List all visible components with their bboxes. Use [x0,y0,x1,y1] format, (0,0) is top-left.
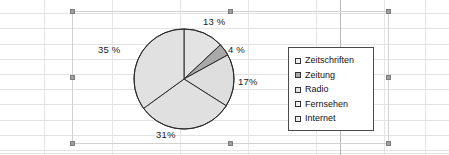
selection-handle-middle-left[interactable] [70,75,75,80]
legend-swatch-icon [295,116,301,122]
legend-item-zeitung[interactable]: Zeitung [295,69,373,82]
legend-item-label: Zeitung [305,71,335,80]
selection-handle-bottom-left[interactable] [70,141,75,146]
legend-swatch-icon [295,72,301,78]
legend-item-radio[interactable]: Radio [295,83,373,96]
legend-item-zeitschriften[interactable]: Zeitschriften [295,54,373,67]
legend-swatch-icon [295,101,301,107]
selection-handle-bottom-right[interactable] [386,141,391,146]
legend-swatch-icon [295,58,301,64]
chart-object-frame[interactable]: 13 % 4 % 17% 31% 35 % Zeitschriften Zeit… [72,11,389,144]
legend-item-fernsehen[interactable]: Fernsehen [295,98,373,111]
legend-item-label: Fernsehen [305,100,348,109]
pie-data-label-zeitung: 4 % [228,44,245,55]
legend-item-internet[interactable]: Internet [295,112,373,125]
legend-item-label: Zeitschriften [305,56,354,65]
legend-swatch-icon [295,87,301,93]
pie-data-label-zeitschriften: 13 % [203,16,225,27]
pie-slice-group [134,29,234,129]
selection-handle-top-left[interactable] [70,9,75,14]
pie-data-label-internet: 35 % [98,44,120,55]
selection-handle-top-right[interactable] [386,9,391,14]
selection-handle-top-center[interactable] [228,9,233,14]
chart-legend[interactable]: Zeitschriften Zeitung Radio Fernsehen In… [288,47,374,131]
pie-data-label-fernsehen: 31% [156,129,176,140]
legend-item-label: Radio [305,85,329,94]
selection-handle-bottom-center[interactable] [228,141,233,146]
selection-handle-middle-right[interactable] [386,75,391,80]
pie-data-label-radio: 17% [238,76,258,87]
legend-item-label: Internet [305,114,336,123]
